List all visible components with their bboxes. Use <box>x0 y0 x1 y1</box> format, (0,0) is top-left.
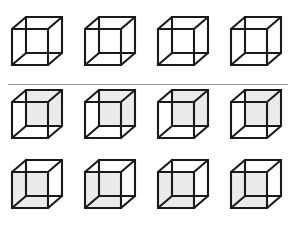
edge-oblique-bottom-left <box>158 53 172 65</box>
cube-cell <box>0 15 73 75</box>
edge-oblique-top-right <box>48 17 62 29</box>
cube-cell <box>147 88 220 148</box>
cube-cell <box>147 15 220 75</box>
edge-oblique-top-left <box>158 160 172 172</box>
edge-oblique-top-left <box>158 17 172 29</box>
cube-r3-c4 <box>229 158 283 218</box>
edge-oblique-top-left <box>231 160 245 172</box>
edge-oblique-top-right <box>121 17 135 29</box>
horizontal-rule <box>8 84 288 85</box>
cube-cell <box>220 88 293 148</box>
edge-oblique-top-left <box>85 17 99 29</box>
edge-oblique-top-right <box>121 160 135 172</box>
cube-cell <box>0 88 73 148</box>
cube-r2-c4 <box>229 88 283 148</box>
edge-oblique-bottom-left <box>85 53 99 65</box>
edge-oblique-bottom-right <box>267 196 281 208</box>
edge-oblique-bottom-right <box>121 126 135 138</box>
edge-oblique-top-left <box>12 17 26 29</box>
edge-oblique-top-left <box>12 90 26 102</box>
cube-cell <box>73 88 146 148</box>
edge-oblique-bottom-left <box>231 53 245 65</box>
edge-oblique-top-left <box>12 160 26 172</box>
cube-r2-c3 <box>156 88 210 148</box>
cube-cell <box>0 158 73 218</box>
edge-oblique-top-right <box>194 160 208 172</box>
cube-row-back-shaded <box>0 88 293 148</box>
edge-oblique-top-left <box>231 17 245 29</box>
edge-oblique-bottom-right <box>194 196 208 208</box>
cube-row-plain <box>0 15 293 75</box>
edge-oblique-top-right <box>267 160 281 172</box>
cube-r3-c1 <box>10 158 64 218</box>
edge-oblique-bottom-right <box>194 53 208 65</box>
cube-r1-c1 <box>10 15 64 75</box>
cube-cell <box>73 15 146 75</box>
necker-cube-figure <box>0 0 293 230</box>
cube-r2-c1 <box>10 88 64 148</box>
cube-r1-c4 <box>229 15 283 75</box>
edge-oblique-top-right <box>267 17 281 29</box>
edge-oblique-bottom-right <box>48 126 62 138</box>
edge-oblique-bottom-left <box>158 126 172 138</box>
edge-oblique-bottom-right <box>121 53 135 65</box>
edge-oblique-top-right <box>194 17 208 29</box>
edge-oblique-top-left <box>231 90 245 102</box>
cube-cell <box>220 15 293 75</box>
edge-oblique-bottom-left <box>12 53 26 65</box>
edge-oblique-bottom-right <box>48 196 62 208</box>
cube-r1-c3 <box>156 15 210 75</box>
edge-oblique-top-left <box>158 90 172 102</box>
edge-oblique-bottom-left <box>85 126 99 138</box>
edge-oblique-bottom-right <box>121 196 135 208</box>
edge-oblique-bottom-left <box>231 126 245 138</box>
edge-oblique-bottom-right <box>267 126 281 138</box>
edge-oblique-top-left <box>85 160 99 172</box>
edge-oblique-top-right <box>48 160 62 172</box>
cube-r3-c2 <box>83 158 137 218</box>
cube-r1-c2 <box>83 15 137 75</box>
cube-r3-c3 <box>156 158 210 218</box>
edge-oblique-bottom-right <box>267 53 281 65</box>
edge-oblique-top-left <box>85 90 99 102</box>
cube-row-front-shaded <box>0 158 293 218</box>
edge-oblique-bottom-left <box>12 126 26 138</box>
cube-cell <box>220 158 293 218</box>
cube-cell <box>147 158 220 218</box>
cube-cell <box>73 158 146 218</box>
cube-r2-c2 <box>83 88 137 148</box>
edge-oblique-bottom-right <box>194 126 208 138</box>
edge-oblique-bottom-right <box>48 53 62 65</box>
